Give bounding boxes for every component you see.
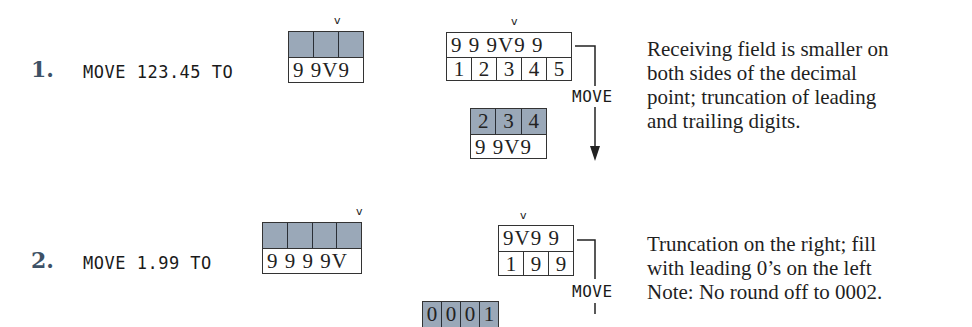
move-arrowhead-1	[590, 146, 600, 161]
description-line: Receiving field is smaller on	[647, 37, 972, 61]
result-field-1: 2 3 4 9 9V9	[470, 108, 547, 159]
sending-cell: 3	[496, 58, 521, 80]
receiving-cell	[312, 223, 337, 248]
description-line: and trailing digits.	[647, 109, 972, 133]
sending-cell: 9	[523, 252, 548, 276]
move-label-1: MOVE	[572, 87, 613, 106]
receiving-picture-1: 9 9V9	[289, 58, 350, 83]
receiving-cell	[313, 32, 338, 57]
result-cell: 4	[521, 109, 546, 134]
receiving-cell	[263, 223, 287, 248]
receiving-cell	[338, 32, 363, 57]
sending-picture-2: 9V9 9	[499, 226, 560, 251]
result-cell: 0	[441, 302, 460, 327]
result-field-2: 0 0 0 1	[422, 301, 499, 327]
sending-field-1: 9 9 9V9 9 1 2 3 4 5	[446, 32, 572, 81]
move-statement-1: MOVE 123.45 TO	[83, 62, 233, 82]
decimal-caret-receiving-1: v	[334, 16, 341, 26]
decimal-caret-sending-1: v	[511, 17, 518, 27]
example-number-1: 1.	[31, 56, 54, 82]
receiving-picture-2: 9 9 9 9V	[263, 249, 348, 274]
result-cell: 1	[479, 302, 498, 327]
decimal-caret-sending-2: v	[520, 211, 527, 221]
result-picture-1: 9 9V9	[471, 135, 532, 160]
move-bracket-2	[577, 240, 595, 279]
result-cell: 0	[423, 302, 441, 327]
sending-cells-2: 1 9 9	[499, 251, 573, 276]
receiving-field-2: 9 9 9 9V	[262, 222, 362, 274]
description-line: both sides of the decimal	[647, 61, 972, 85]
description-line: Note: No round off to 0002.	[647, 280, 972, 304]
example-number-2: 2.	[31, 247, 54, 273]
sending-cell: 5	[546, 58, 571, 80]
receiving-field-1: 9 9V9	[288, 31, 364, 83]
description-line: with leading 0’s on the left	[647, 256, 972, 280]
move-label-2: MOVE	[572, 282, 613, 301]
result-cell: 2	[471, 109, 495, 134]
move-bracket-1	[575, 46, 595, 86]
receiving-cell	[336, 223, 361, 248]
sending-cell: 9	[548, 252, 573, 276]
receiving-cell	[289, 32, 313, 57]
result-cells-2: 0 0 0 1	[423, 302, 498, 327]
result-cells-1: 2 3 4	[471, 109, 546, 134]
sending-picture-1: 9 9 9V9 9	[447, 33, 543, 57]
description-line: Truncation on the right; fill	[647, 232, 972, 256]
sending-cell: 4	[521, 58, 546, 80]
description-2: Truncation on the right; fill with leadi…	[647, 232, 972, 304]
sending-cell: 1	[499, 252, 523, 276]
move-statement-2: MOVE 1.99 TO	[83, 253, 212, 273]
decimal-caret-receiving-2: v	[356, 207, 363, 217]
sending-cells-1: 1 2 3 4 5	[447, 57, 571, 80]
result-cell: 3	[495, 109, 520, 134]
description-1: Receiving field is smaller on both sides…	[647, 37, 972, 133]
sending-field-2: 9V9 9 1 9 9	[498, 225, 574, 276]
receiving-cells-2	[263, 223, 361, 248]
receiving-cell	[287, 223, 312, 248]
result-cell: 0	[460, 302, 479, 327]
receiving-cells-1	[289, 32, 363, 57]
sending-cell: 1	[447, 58, 471, 80]
description-line: point; truncation of leading	[647, 85, 972, 109]
sending-cell: 2	[471, 58, 496, 80]
